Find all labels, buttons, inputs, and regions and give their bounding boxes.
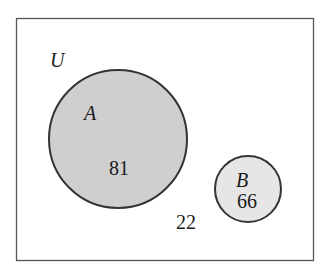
set-a-count: 81 bbox=[109, 157, 129, 179]
universe-label: U bbox=[50, 49, 66, 71]
venn-diagram: U A 81 B 66 22 bbox=[0, 0, 335, 265]
set-b-count: 66 bbox=[237, 190, 257, 212]
set-b-label: B bbox=[236, 169, 248, 191]
outside-count: 22 bbox=[176, 211, 196, 233]
set-a-circle bbox=[49, 70, 187, 208]
set-a-label: A bbox=[82, 102, 97, 124]
